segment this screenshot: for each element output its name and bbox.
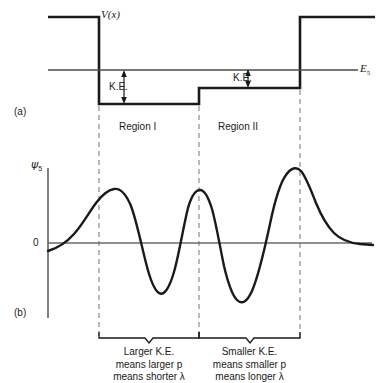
region-label-one: Region I	[119, 121, 156, 134]
panel-a-tag: (a)	[14, 106, 26, 119]
caption-left-line1: Larger K.E.	[99, 346, 199, 359]
wavefunction-curve	[48, 168, 373, 302]
psi-label: ψ5	[31, 158, 42, 174]
potential-well-curve	[48, 17, 375, 104]
energy-level-symbol: E	[360, 62, 367, 74]
figure-graphics	[0, 0, 380, 383]
ke-label-right: K.E.	[233, 72, 252, 85]
caption-left-line3: means shorter λ	[99, 371, 199, 383]
ke-label-left: K.E.	[109, 81, 128, 94]
energy-level-subscript: 5	[367, 69, 371, 77]
psi-zero-label: 0	[33, 237, 39, 250]
panel-b-tag: (b)	[14, 307, 26, 320]
region-label-two: Region II	[218, 121, 258, 134]
caption-right-line2: means smaller p	[199, 359, 300, 372]
potential-label: V(x)	[101, 8, 120, 22]
ke-arrow-left-head-up	[121, 70, 127, 77]
psi-subscript: 5	[38, 165, 42, 172]
caption-left: Larger K.E. means larger p means shorter…	[99, 346, 199, 383]
brace-right	[199, 332, 300, 343]
caption-left-line2: means larger p	[99, 359, 199, 372]
caption-right-line3: means longer λ	[199, 371, 300, 383]
energy-level-label: E5	[360, 62, 370, 78]
caption-right: Smaller K.E. means smaller p means longe…	[199, 346, 300, 383]
physics-figure: (a) V(x) E5 K.E. K.E. Region I Region II…	[0, 0, 380, 383]
caption-right-line1: Smaller K.E.	[199, 346, 300, 359]
brace-left	[99, 332, 199, 343]
